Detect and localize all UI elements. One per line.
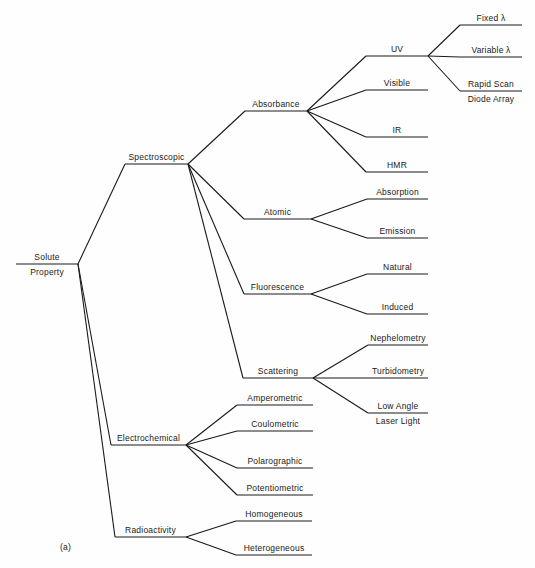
- node-label-turbidometry: Turbidometry: [372, 366, 425, 376]
- node-label-emission: Emission: [379, 226, 415, 236]
- connector-low-angle-laser-light: [313, 378, 368, 413]
- node-label-visible: Visible: [384, 78, 410, 88]
- detection-method-tree-diagram: SolutePropertySpectroscopicAbsorbanceUVF…: [0, 0, 535, 568]
- node-label-natural: Natural: [383, 262, 412, 272]
- tree-diagram-svg: SolutePropertySpectroscopicAbsorbanceUVF…: [0, 0, 535, 568]
- connector-atomic: [188, 164, 244, 219]
- node-label-potentiometric: Potentiometric: [246, 483, 304, 493]
- connector-electrochemical: [78, 264, 111, 445]
- connector-fixed-lambda: [428, 25, 460, 56]
- node-label-amperometric: Amperometric: [247, 393, 303, 403]
- connector-heterogeneous: [186, 537, 236, 555]
- node-label-radioactivity: Radioactivity: [125, 525, 176, 535]
- connector-coulometric: [186, 431, 237, 445]
- connector-polarographic: [186, 445, 237, 468]
- connector-spectroscopic: [78, 164, 125, 264]
- node-label-fluorescence: Fluorescence: [251, 282, 304, 292]
- node-label-coulometric: Coulometric: [251, 419, 299, 429]
- node-label-absorbance: Absorbance: [252, 99, 299, 109]
- node-label-variable-lambda: Variable λ: [471, 45, 511, 55]
- figure-label: (a): [60, 542, 71, 552]
- connector-emission: [311, 219, 367, 238]
- connector-radioactivity: [78, 264, 115, 537]
- node-label-rapid-scan-diode-array-line2: Diode Array: [468, 94, 515, 104]
- connector-visible: [307, 90, 366, 111]
- connector-amperometric: [186, 405, 237, 445]
- connector-natural: [311, 274, 367, 294]
- node-label-spectroscopic: Spectroscopic: [129, 152, 186, 162]
- node-label-electrochemical: Electrochemical: [117, 433, 180, 443]
- connector-induced: [311, 294, 367, 314]
- node-label-homogeneous: Homogeneous: [245, 509, 303, 519]
- node-label-rapid-scan-diode-array: Rapid Scan: [468, 79, 514, 89]
- connector-potentiometric: [186, 445, 237, 495]
- node-label-fixed-lambda: Fixed λ: [477, 13, 506, 23]
- node-label-induced: Induced: [382, 302, 414, 312]
- connector-nephelometry: [313, 345, 368, 378]
- connector-ir: [307, 111, 366, 137]
- connector-absorption: [311, 199, 367, 219]
- node-label-solute-property-line2: Property: [30, 267, 64, 277]
- node-label-low-angle-laser-light-line2: Laser Light: [376, 416, 421, 426]
- connector-rapid-scan-diode-array: [428, 56, 460, 91]
- connector-variable-lambda: [428, 56, 460, 57]
- node-label-atomic: Atomic: [264, 207, 292, 217]
- node-label-heterogeneous: Heterogeneous: [244, 543, 305, 553]
- connector-scattering: [188, 164, 243, 378]
- node-label-hmr: HMR: [387, 160, 407, 170]
- node-label-ir: IR: [393, 125, 402, 135]
- connector-hmr: [307, 111, 366, 172]
- node-label-solute-property: Solute: [34, 252, 59, 262]
- node-label-scattering: Scattering: [258, 366, 298, 376]
- node-label-polarographic: Polarographic: [247, 456, 303, 466]
- connector-homogeneous: [186, 521, 236, 537]
- node-label-uv: UV: [391, 44, 403, 54]
- node-label-absorption: Absorption: [376, 187, 419, 197]
- node-label-low-angle-laser-light: Low Angle: [377, 401, 418, 411]
- connector-absorbance: [188, 111, 245, 164]
- node-label-nephelometry: Nephelometry: [370, 333, 426, 343]
- connector-uv: [307, 56, 366, 111]
